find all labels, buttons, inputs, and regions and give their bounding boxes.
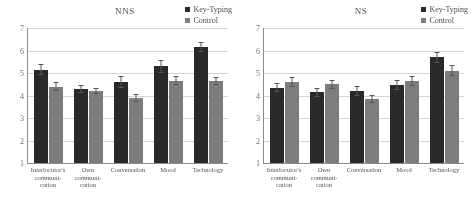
bar-wrapper xyxy=(405,28,419,163)
bar xyxy=(310,92,324,163)
bar-group xyxy=(304,28,344,163)
legend-nns: Key-Typing Control xyxy=(185,4,232,26)
legend-label-key-typing: Key-Typing xyxy=(429,4,468,15)
bar-group xyxy=(384,28,424,163)
bar-wrapper xyxy=(350,28,364,163)
bar xyxy=(405,81,419,163)
bar xyxy=(169,81,183,163)
x-axis-category-label: Interlocutor's communi-​cation xyxy=(264,166,304,189)
bar xyxy=(154,66,168,163)
plot-area-ns: 1234567 xyxy=(264,28,464,163)
error-bar xyxy=(411,76,412,86)
bar-group xyxy=(108,28,148,163)
x-axis-category-label: Own communi-​cation xyxy=(68,166,108,189)
bar-wrapper xyxy=(114,28,128,163)
error-bar xyxy=(371,95,372,103)
x-axis-category-label: Own communi-​cation xyxy=(304,166,344,189)
y-axis-tick-label: 2 xyxy=(256,136,260,145)
legend-entry-control: Control xyxy=(185,15,232,26)
x-axis-category-label: Mood xyxy=(148,166,188,189)
x-axis-category-label: Technology xyxy=(424,166,464,189)
error-bar xyxy=(451,65,452,76)
bar xyxy=(390,85,404,163)
panel-ns: NS Key-Typing Control 1234567 Interlocut… xyxy=(236,0,472,216)
bar xyxy=(270,88,284,163)
bar-wrapper xyxy=(445,28,459,163)
y-axis-tick-label: 4 xyxy=(256,91,260,100)
bar-wrapper xyxy=(430,28,444,163)
bar-wrapper xyxy=(209,28,223,163)
legend-label-control: Control xyxy=(193,15,217,26)
legend-swatch-control xyxy=(185,18,190,23)
bar-wrapper xyxy=(49,28,63,163)
y-axis-tick-label: 3 xyxy=(256,114,260,123)
error-bar xyxy=(316,88,317,97)
error-bar xyxy=(331,80,332,89)
bar-group xyxy=(344,28,384,163)
bar-wrapper xyxy=(89,28,103,163)
error-bar xyxy=(396,80,397,90)
error-bar xyxy=(215,77,216,85)
bar-wrapper xyxy=(34,28,48,163)
y-axis-tick-label: 7 xyxy=(256,24,260,33)
x-axis-category-label: Technology xyxy=(188,166,228,189)
y-axis-tick-label: 1 xyxy=(256,159,260,168)
y-axis-tick-label: 5 xyxy=(20,69,24,78)
bar-group xyxy=(424,28,464,163)
panel-nns: NNS Key-Typing Control 1234567 Interlocu… xyxy=(0,0,236,216)
x-axis-labels-ns: Interlocutor's communi-​cationOwn commun… xyxy=(264,166,464,189)
legend-ns: Key-Typing Control xyxy=(421,4,468,26)
bar-group xyxy=(68,28,108,163)
x-axis-category-label: Interlocutor's communi-​cation xyxy=(28,166,68,189)
error-bar xyxy=(200,42,201,52)
error-bar xyxy=(175,76,176,85)
bar xyxy=(325,84,339,163)
y-axis-tick-label: 5 xyxy=(256,69,260,78)
x-axis-category-label: Mood xyxy=(384,166,424,189)
bar xyxy=(34,70,48,163)
bar xyxy=(350,91,364,163)
x-axis-labels-nns: Interlocutor's communi-​cationOwn commun… xyxy=(28,166,228,189)
error-bar xyxy=(356,86,357,96)
error-bar xyxy=(135,94,136,102)
figure-two-panel-bar-charts: NNS Key-Typing Control 1234567 Interlocu… xyxy=(0,0,472,216)
legend-swatch-control xyxy=(421,18,426,23)
y-axis-tick-label: 1 xyxy=(20,159,24,168)
x-axis-category-label: Conversation xyxy=(344,166,384,189)
bar xyxy=(285,82,299,163)
gridline: 1 xyxy=(28,163,228,164)
bar-group xyxy=(28,28,68,163)
bar xyxy=(89,91,103,163)
bar-wrapper xyxy=(154,28,168,163)
bar xyxy=(114,82,128,163)
gridline: 1 xyxy=(264,163,464,164)
legend-label-control: Control xyxy=(429,15,453,26)
bar-groups-ns xyxy=(264,28,464,163)
legend-label-key-typing: Key-Typing xyxy=(193,4,232,15)
bar-group xyxy=(264,28,304,163)
y-axis-tick-label: 6 xyxy=(256,46,260,55)
bar-group xyxy=(148,28,188,163)
bar-wrapper xyxy=(310,28,324,163)
x-axis-category-label: Conversation xyxy=(108,166,148,189)
legend-swatch-key-typing xyxy=(185,7,190,12)
y-axis-tick-label: 4 xyxy=(20,91,24,100)
y-axis-tick-label: 2 xyxy=(20,136,24,145)
bar xyxy=(209,81,223,163)
error-bar xyxy=(160,60,161,73)
error-bar xyxy=(40,64,41,75)
legend-entry-key-typing: Key-Typing xyxy=(185,4,232,15)
error-bar xyxy=(276,83,277,92)
y-axis-tick-label: 6 xyxy=(20,46,24,55)
bar-groups-nns xyxy=(28,28,228,163)
legend-swatch-key-typing xyxy=(421,7,426,12)
y-axis-tick-label: 7 xyxy=(20,24,24,33)
bar xyxy=(129,98,143,163)
error-bar xyxy=(55,82,56,91)
bar-wrapper xyxy=(390,28,404,163)
error-bar xyxy=(95,88,96,95)
bar xyxy=(445,71,459,163)
bar xyxy=(74,89,88,163)
legend-entry-key-typing: Key-Typing xyxy=(421,4,468,15)
bar-wrapper xyxy=(194,28,208,163)
